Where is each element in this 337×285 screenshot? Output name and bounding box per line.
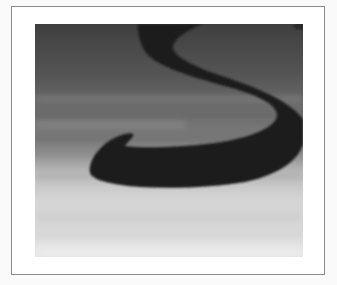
page <box>0 0 337 285</box>
photo-image <box>35 24 303 257</box>
photo <box>35 24 303 257</box>
